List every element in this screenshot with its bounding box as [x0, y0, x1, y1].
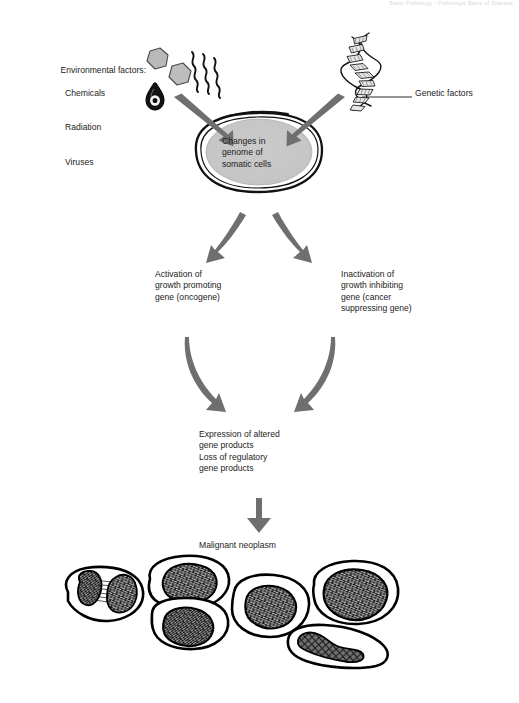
genome-change-label: Changes in genome of somatic cells — [222, 136, 318, 170]
environmental-item-radiation: Radiation — [65, 122, 146, 133]
virus-icon — [146, 83, 164, 110]
arrow-icon — [247, 498, 271, 533]
environmental-item-chemicals: Chemicals — [65, 88, 146, 99]
wavy-lines-icon — [192, 52, 220, 98]
arrow-icon — [206, 212, 312, 263]
oncogene-activation-label: Activation of growth promoting gene (onc… — [155, 269, 221, 303]
hexagon-icon — [147, 48, 191, 85]
carcinogenesis-diagram: Basic Pathology / Pathologic Basis of Di… — [0, 0, 519, 703]
genetic-factors-label: Genetic factors — [415, 88, 473, 99]
malignant-neoplasm-label: Malignant neoplasm — [199, 540, 276, 551]
environmental-factors-label: Environmental factors: Chemicals Radiati… — [51, 54, 146, 191]
environmental-heading: Environmental factors: — [61, 65, 147, 75]
environmental-item-viruses: Viruses — [65, 157, 146, 168]
dna-helix-icon — [341, 33, 381, 111]
tumor-suppressor-inactivation-label: Inactivation of growth inhibiting gene (… — [341, 269, 412, 315]
tumor-cell-cluster-icon — [66, 556, 398, 668]
arrow-icon — [185, 337, 336, 412]
gene-product-expression-label: Expression of altered gene products Loss… — [199, 429, 280, 475]
